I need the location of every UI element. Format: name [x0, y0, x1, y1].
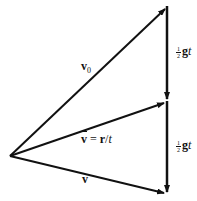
v0-label: v0 — [81, 59, 91, 75]
vector-arrows — [0, 0, 197, 201]
t-symbol: t — [108, 132, 111, 146]
t-symbol: t — [188, 44, 191, 58]
t-symbol: t — [188, 138, 191, 152]
half-fraction: 12 — [176, 46, 181, 59]
half-gt-upper-label: 12gt — [176, 44, 191, 59]
equals-sign: = — [87, 132, 100, 146]
v-label: v — [82, 172, 88, 187]
vbar-arrow — [10, 103, 164, 156]
velocity-vector-diagram: v0 v = r/t v 12gt 12gt — [0, 0, 197, 201]
half-gt-lower-label: 12gt — [176, 138, 191, 153]
half-fraction: 12 — [176, 140, 181, 153]
v0-subscript: 0 — [87, 66, 91, 75]
vbar-label: v = r/t — [81, 132, 112, 147]
